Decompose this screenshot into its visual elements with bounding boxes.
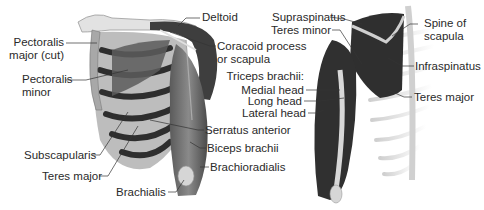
- label-line: minor: [22, 86, 73, 99]
- label-supraspinatus: Supraspinatus: [272, 11, 346, 24]
- label-teres-major-posterior: Teres major: [414, 91, 474, 104]
- label-serratus-anterior: Serratus anterior: [205, 124, 291, 137]
- label-line: Pectoralis: [6, 36, 64, 49]
- label-brachioradialis: Brachioradialis: [210, 161, 285, 174]
- label-pectoralis-minor: Pectoralis minor: [22, 73, 73, 99]
- anatomy-diagram: Pectoralis major (cut) Pectoralis minor …: [0, 0, 484, 210]
- label-coracoid-process: Coracoid process or scapula: [217, 40, 306, 66]
- posterior-view: [314, 6, 434, 203]
- label-line: Coracoid process: [217, 40, 306, 53]
- label-biceps-brachii: Biceps brachii: [207, 142, 279, 155]
- label-lateral-head: Lateral head: [226, 107, 306, 120]
- label-line: scapula: [424, 30, 466, 43]
- label-line: Pectoralis: [22, 73, 73, 86]
- label-deltoid: Deltoid: [202, 11, 238, 24]
- label-subscapularis: Subscapularis: [24, 149, 96, 162]
- anterior-view: [78, 15, 217, 196]
- label-teres-minor: Teres minor: [271, 24, 331, 37]
- label-infraspinatus: Infraspinatus: [415, 60, 481, 73]
- label-line: major (cut): [6, 49, 64, 62]
- label-line: Spine of: [424, 17, 466, 30]
- label-spine-of-scapula: Spine of scapula: [424, 17, 466, 43]
- label-triceps-brachii: Triceps brachii:: [224, 70, 304, 83]
- label-line: or scapula: [217, 53, 306, 66]
- label-brachialis: Brachialis: [116, 186, 166, 199]
- label-teres-major-anterior: Teres major: [42, 170, 102, 183]
- label-pectoralis-major: Pectoralis major (cut): [6, 36, 64, 62]
